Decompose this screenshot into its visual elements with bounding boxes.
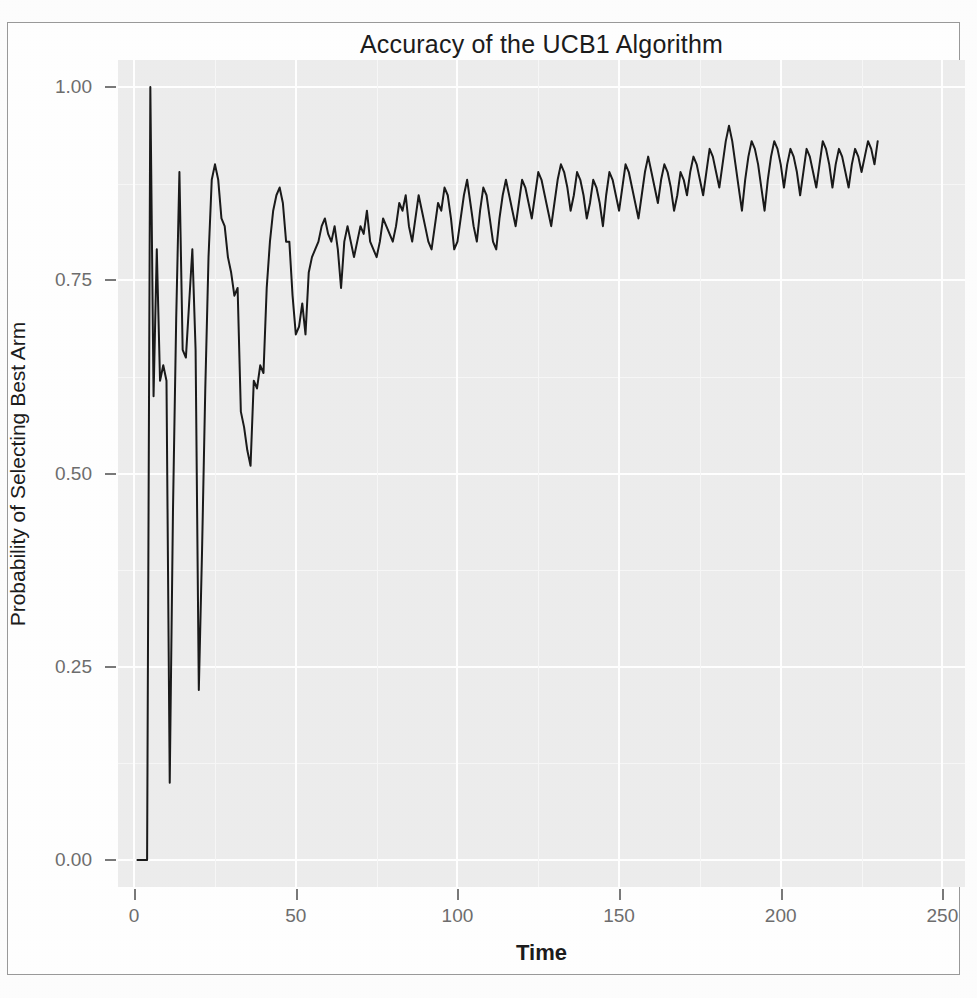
y-axis-title: Probability of Selecting Best Arm <box>6 322 30 627</box>
x-tick-label-0: 0 <box>94 905 174 927</box>
x-tick-label-100: 100 <box>417 905 497 927</box>
x-tick-mark-250 <box>942 889 944 900</box>
x-tick-mark-0 <box>134 889 136 900</box>
data-series-layer <box>118 60 965 887</box>
y-tick-mark-0.50 <box>105 473 116 475</box>
x-tick-label-200: 200 <box>741 905 821 927</box>
x-tick-label-250: 250 <box>902 905 977 927</box>
y-tick-label-0.25: 0.25 <box>22 656 92 678</box>
x-tick-mark-200 <box>781 889 783 900</box>
chart-figure: Accuracy of the UCB1 Algorithm 0.000.250… <box>0 0 977 998</box>
x-tick-label-50: 50 <box>256 905 336 927</box>
chart-title: Accuracy of the UCB1 Algorithm <box>118 30 965 59</box>
x-tick-mark-150 <box>619 889 621 900</box>
y-tick-mark-0.25 <box>105 666 116 668</box>
x-tick-mark-100 <box>457 889 459 900</box>
scanned-page: Accuracy of the UCB1 Algorithm 0.000.250… <box>0 0 977 998</box>
y-tick-mark-0.00 <box>105 859 116 861</box>
y-tick-label-0.00: 0.00 <box>22 849 92 871</box>
x-axis-title: Time <box>118 940 965 966</box>
line-series-ucb1-accuracy <box>137 87 877 860</box>
y-tick-label-0.50: 0.50 <box>22 463 92 485</box>
y-tick-mark-1.00 <box>105 86 116 88</box>
y-tick-mark-0.75 <box>105 279 116 281</box>
y-tick-label-1.00: 1.00 <box>22 76 92 98</box>
x-tick-mark-50 <box>296 889 298 900</box>
plot-panel <box>118 60 965 887</box>
y-tick-label-0.75: 0.75 <box>22 269 92 291</box>
x-tick-label-150: 150 <box>579 905 659 927</box>
